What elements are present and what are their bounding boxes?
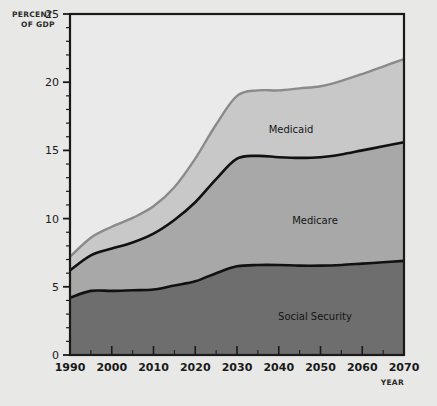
series-label-medicare: Medicare [292, 215, 338, 226]
x-axis-title: YEAR [380, 378, 404, 387]
x-tick-label: 2040 [263, 361, 294, 374]
x-tick-label: 2050 [305, 361, 336, 374]
y-tick-label: 5 [52, 281, 59, 294]
x-tick-label: 2020 [180, 361, 211, 374]
y-tick-label: 10 [45, 213, 59, 226]
x-tick-label: 2000 [96, 361, 127, 374]
y-axis-title-line2: OF GDP [21, 20, 55, 29]
chart-figure: 0510152025 19902000201020202030204020502… [0, 0, 437, 406]
area-chart-svg: 0510152025 19902000201020202030204020502… [0, 0, 437, 406]
y-tick-label: 20 [45, 76, 59, 89]
x-tick-label: 2030 [222, 361, 253, 374]
y-tick-label: 15 [45, 144, 59, 157]
x-tick-label: 2070 [389, 361, 420, 374]
x-tick-label: 1990 [55, 361, 86, 374]
series-label-social-security: Social Security [278, 311, 352, 322]
series-label-medicaid: Medicaid [269, 124, 314, 135]
x-tick-label: 2060 [347, 361, 378, 374]
y-axis-title-line1: PERCENT [12, 10, 53, 19]
x-tick-label: 2010 [138, 361, 169, 374]
x-axis-tick-labels: 199020002010202020302040205020602070 [55, 361, 420, 374]
